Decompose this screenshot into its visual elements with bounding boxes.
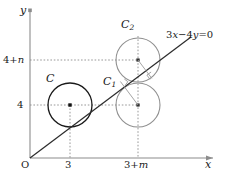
- line-equation-label: 3x−4y=0: [166, 30, 213, 40]
- circle-C1-label-sub: 1: [111, 80, 116, 89]
- circle-C2-label: C2: [121, 19, 134, 31]
- circle-C1-label: C1: [103, 76, 116, 88]
- y-axis-label: y: [20, 5, 26, 16]
- x-tick-label-3-plus-m: 3+m: [124, 160, 148, 170]
- y-tick-label-4-plus-n: 4+n: [3, 55, 24, 65]
- geometry-figure: y x O 3 3+m 4 4+n C C1 C2 3x−4y=0: [0, 0, 227, 175]
- x-tick-label-3: 3: [65, 160, 71, 170]
- x-axis-label: x: [205, 159, 211, 170]
- y-tick-label-4: 4: [17, 100, 23, 110]
- x-tick-3m-var: m: [139, 159, 148, 170]
- circle-C-label: C: [46, 73, 54, 84]
- origin-label: O: [21, 160, 29, 170]
- perpendicular-C2: [138, 60, 152, 79]
- guide-lines: [30, 36, 140, 158]
- y-tick-4n-var: n: [18, 54, 24, 65]
- x-tick-3m-base: 3+: [124, 159, 139, 170]
- circle-C-label-base: C: [46, 72, 54, 85]
- y-tick-4n-base: 4+: [3, 54, 18, 65]
- circle-C2-label-sub: 2: [129, 23, 134, 32]
- line-3x-4y-0: [30, 37, 191, 158]
- y-axis-cap: [28, 9, 32, 13]
- eq-rhs: =0: [198, 29, 213, 40]
- circle-C-center-dot: [68, 103, 71, 106]
